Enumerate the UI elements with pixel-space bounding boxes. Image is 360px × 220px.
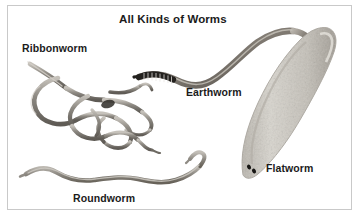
worm-diagram-figure: All Kinds of Worms Ribbonworm Earthworm … <box>0 0 360 220</box>
label-roundworm: Roundworm <box>73 192 135 204</box>
figure-frame <box>7 5 352 210</box>
figure-title: All Kinds of Worms <box>119 13 227 25</box>
label-ribbonworm: Ribbonworm <box>22 42 87 54</box>
label-flatworm: Flatworm <box>266 162 313 174</box>
label-earthworm: Earthworm <box>186 86 242 98</box>
